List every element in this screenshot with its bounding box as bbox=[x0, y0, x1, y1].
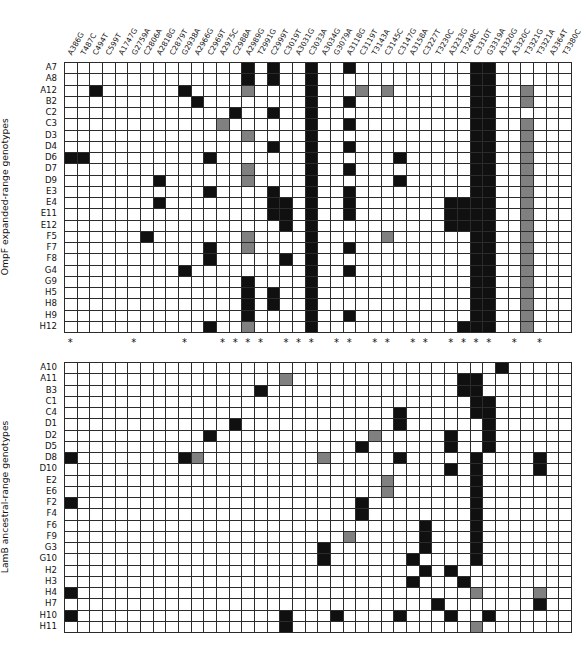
genotype-cell bbox=[103, 164, 116, 175]
genotype-cell bbox=[306, 153, 319, 164]
genotype-cell bbox=[547, 164, 560, 175]
genotype-cell bbox=[559, 187, 572, 198]
genotype-cell bbox=[331, 187, 344, 198]
genotype-cell bbox=[293, 277, 306, 288]
asterisk-row: ********************** bbox=[64, 335, 571, 351]
genotype-cell bbox=[496, 577, 509, 588]
genotype-cell bbox=[331, 442, 344, 453]
genotype-cell bbox=[534, 288, 547, 299]
genotype-cell bbox=[103, 431, 116, 442]
genotype-cell bbox=[509, 63, 522, 74]
table-row bbox=[65, 464, 572, 475]
genotype-cell bbox=[509, 622, 522, 633]
genotype-cell bbox=[179, 476, 192, 487]
genotype-cell bbox=[356, 453, 369, 464]
genotype-cell bbox=[318, 532, 331, 543]
genotype-cell bbox=[128, 221, 141, 232]
genotype-cell bbox=[318, 577, 331, 588]
genotype-cell bbox=[331, 453, 344, 464]
genotype-cell bbox=[445, 442, 458, 453]
genotype-cell bbox=[407, 311, 420, 322]
genotype-cell bbox=[382, 131, 395, 142]
genotype-cell bbox=[521, 577, 534, 588]
genotype-cell bbox=[559, 566, 572, 577]
genotype-cell bbox=[306, 408, 319, 419]
genotype-cell bbox=[559, 311, 572, 322]
genotype-cell bbox=[128, 588, 141, 599]
genotype-cell bbox=[382, 431, 395, 442]
genotype-cell bbox=[394, 397, 407, 408]
genotype-cell bbox=[509, 108, 522, 119]
genotype-cell bbox=[78, 176, 91, 187]
genotype-cell bbox=[369, 209, 382, 220]
genotype-cell bbox=[521, 243, 534, 254]
genotype-cell bbox=[268, 419, 281, 430]
genotype-cell bbox=[192, 543, 205, 554]
genotype-cell bbox=[496, 386, 509, 397]
genotype-cell bbox=[356, 74, 369, 85]
genotype-cell bbox=[128, 464, 141, 475]
genotype-cell bbox=[242, 566, 255, 577]
genotype-cell bbox=[179, 453, 192, 464]
genotype-cell bbox=[318, 86, 331, 97]
genotype-cell bbox=[103, 464, 116, 475]
genotype-cell bbox=[547, 374, 560, 385]
genotype-cell bbox=[331, 277, 344, 288]
genotype-cell bbox=[356, 108, 369, 119]
genotype-cell bbox=[306, 442, 319, 453]
genotype-cell bbox=[394, 476, 407, 487]
genotype-cell bbox=[255, 386, 268, 397]
genotype-cell bbox=[382, 566, 395, 577]
genotype-cell bbox=[496, 374, 509, 385]
genotype-cell bbox=[471, 487, 484, 498]
genotype-cell bbox=[103, 97, 116, 108]
genotype-cell bbox=[141, 577, 154, 588]
genotype-cell bbox=[293, 374, 306, 385]
genotype-cell bbox=[90, 464, 103, 475]
genotype-cell bbox=[356, 599, 369, 610]
genotype-cell bbox=[204, 176, 217, 187]
genotype-cell bbox=[559, 374, 572, 385]
genotype-cell bbox=[141, 622, 154, 633]
genotype-cell bbox=[141, 299, 154, 310]
genotype-cell bbox=[407, 254, 420, 265]
genotype-cell bbox=[204, 476, 217, 487]
table-row bbox=[65, 322, 572, 333]
genotype-cell bbox=[369, 86, 382, 97]
genotype-cell bbox=[521, 299, 534, 310]
genotype-cell bbox=[255, 97, 268, 108]
genotype-cell bbox=[394, 97, 407, 108]
genotype-cell bbox=[496, 142, 509, 153]
genotype-cell bbox=[318, 131, 331, 142]
genotype-cell bbox=[509, 153, 522, 164]
genotype-cell bbox=[420, 209, 433, 220]
genotype-cell bbox=[534, 588, 547, 599]
genotype-cell bbox=[369, 221, 382, 232]
genotype-cell bbox=[78, 119, 91, 130]
genotype-cell bbox=[78, 153, 91, 164]
genotype-cell bbox=[141, 164, 154, 175]
table-row bbox=[65, 622, 572, 633]
genotype-cell bbox=[78, 198, 91, 209]
genotype-cell bbox=[344, 386, 357, 397]
genotype-cell bbox=[154, 209, 167, 220]
genotype-cell bbox=[420, 97, 433, 108]
genotype-cell bbox=[154, 566, 167, 577]
genotype-cell bbox=[192, 108, 205, 119]
genotype-cell bbox=[471, 532, 484, 543]
genotype-cell bbox=[394, 431, 407, 442]
genotype-cell bbox=[382, 611, 395, 622]
genotype-cell bbox=[534, 232, 547, 243]
genotype-cell bbox=[445, 232, 458, 243]
genotype-cell bbox=[179, 554, 192, 565]
genotype-cell bbox=[344, 599, 357, 610]
genotype-cell bbox=[230, 577, 243, 588]
genotype-cell bbox=[471, 374, 484, 385]
genotype-cell bbox=[179, 187, 192, 198]
table-row bbox=[65, 164, 572, 175]
genotype-cell bbox=[141, 254, 154, 265]
genotype-cell bbox=[356, 86, 369, 97]
genotype-cell bbox=[179, 288, 192, 299]
genotype-cell bbox=[407, 599, 420, 610]
genotype-cell bbox=[306, 288, 319, 299]
